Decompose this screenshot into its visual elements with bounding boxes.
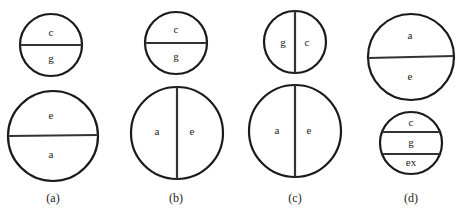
horizontal-divider	[8, 135, 98, 136]
panel-b: c g a e (b)	[131, 12, 223, 205]
region-label: e	[408, 70, 413, 82]
panel-c-top-circle: g c	[264, 11, 326, 73]
region-label: ex	[406, 156, 417, 168]
panel-c-bottom-circle: a e	[249, 85, 341, 177]
circle-partition-diagram: c g e a (a) c g a e (b) g	[0, 0, 463, 210]
region-label: a	[49, 148, 54, 160]
panel-caption: (d)	[404, 191, 418, 205]
panel-a: c g e a (a)	[8, 14, 98, 205]
panel-caption: (b)	[169, 191, 183, 205]
panel-b-top-circle: c g	[145, 12, 207, 74]
panel-d: a e c g ex (d)	[368, 14, 454, 205]
panel-caption: (c)	[288, 191, 301, 205]
region-label: a	[408, 29, 413, 41]
panel-d-bottom-circle: c g ex	[380, 112, 442, 174]
panel-d-top-circle: a e	[368, 14, 454, 100]
region-label: c	[49, 26, 54, 38]
region-label: e	[190, 125, 195, 137]
region-label: a	[275, 124, 280, 136]
region-label: c	[305, 36, 310, 48]
region-label: g	[173, 50, 179, 62]
region-label: a	[155, 125, 160, 137]
region-label: g	[280, 36, 286, 48]
panel-a-bottom-circle: e a	[8, 91, 98, 181]
region-label: c	[409, 116, 414, 128]
panel-caption: (a)	[46, 191, 59, 205]
region-label: g	[48, 52, 54, 64]
region-label: e	[49, 109, 54, 121]
panel-a-top-circle: c g	[20, 14, 82, 76]
region-label: e	[307, 124, 312, 136]
region-label: c	[174, 23, 179, 35]
region-label: g	[408, 136, 414, 148]
panel-b-bottom-circle: a e	[131, 87, 223, 179]
panel-c: g c a e (c)	[249, 11, 341, 205]
